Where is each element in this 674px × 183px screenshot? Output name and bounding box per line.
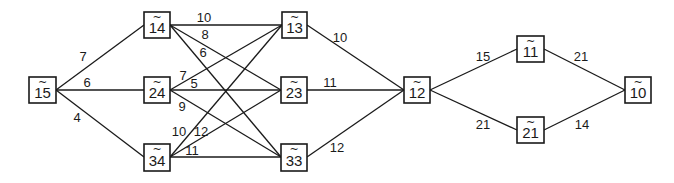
node-label: 12	[409, 84, 426, 101]
edge-weight-label: 12	[330, 140, 344, 155]
edge-14-13: 10	[170, 10, 282, 25]
edge-weight-label: 8	[201, 27, 208, 42]
node-12: ~12	[404, 76, 430, 103]
edge-line	[307, 25, 404, 90]
edge-12-21: 21	[430, 90, 517, 132]
edge-weight-label: 7	[79, 49, 86, 64]
node-label: 21	[522, 124, 539, 141]
node-label: 10	[630, 84, 647, 101]
node-label: 11	[523, 43, 539, 60]
edge-13-12: 10	[307, 25, 404, 90]
node-13: ~13	[282, 11, 307, 38]
edge-24-23: 5	[170, 76, 281, 91]
node-23: ~23	[281, 76, 307, 103]
edge-weight-label: 14	[575, 117, 589, 132]
edge-line	[56, 25, 144, 90]
node-34: ~34	[144, 143, 170, 171]
edge-33-12: 12	[307, 90, 404, 157]
edge-weight-label: 6	[199, 45, 206, 60]
node-24: ~24	[144, 76, 170, 103]
edge-weight-label: 21	[574, 49, 588, 64]
edge-weight-label: 6	[83, 75, 90, 90]
edge-21-10: 14	[544, 90, 625, 132]
network-diagram: 764108675910121110111215212114 ~15~14~24…	[0, 0, 674, 183]
edge-weight-label: 9	[178, 99, 185, 114]
node-label: 24	[149, 84, 166, 101]
edge-weight-label: 10	[172, 124, 186, 139]
edge-line	[430, 90, 517, 130]
node-label: 34	[149, 152, 166, 169]
edge-line	[430, 49, 517, 90]
edge-weight-label: 21	[476, 117, 490, 132]
node-label: 13	[286, 19, 303, 36]
edge-11-10: 21	[544, 49, 625, 90]
node-label: 14	[149, 19, 166, 36]
edge-15-14: 7	[56, 25, 144, 90]
node-11: ~11	[517, 35, 544, 62]
node-21: ~21	[517, 116, 544, 143]
edge-weight-label: 7	[179, 68, 186, 83]
node-15: ~15	[29, 76, 56, 103]
edge-weight-label: 11	[185, 143, 199, 158]
node-33: ~33	[281, 143, 307, 171]
edge-15-34: 4	[56, 90, 144, 157]
node-label: 33	[286, 152, 303, 169]
edge-weight-label: 12	[194, 124, 208, 139]
edge-weight-label: 11	[323, 75, 337, 90]
edge-weight-label: 10	[333, 30, 347, 45]
edge-weight-label: 4	[73, 110, 80, 125]
edge-34-33: 11	[170, 143, 281, 158]
node-label: 15	[34, 84, 51, 101]
edge-15-24: 6	[56, 75, 144, 90]
edge-weight-label: 10	[197, 10, 211, 25]
edge-line	[56, 90, 144, 157]
edge-weight-label: 5	[190, 76, 197, 91]
edge-23-12: 11	[307, 75, 404, 90]
edge-weight-label: 15	[476, 49, 490, 64]
edge-line	[307, 90, 404, 157]
node-10: ~10	[625, 76, 651, 103]
node-label: 23	[286, 84, 303, 101]
node-14: ~14	[144, 11, 170, 38]
edge-12-11: 15	[430, 49, 517, 90]
